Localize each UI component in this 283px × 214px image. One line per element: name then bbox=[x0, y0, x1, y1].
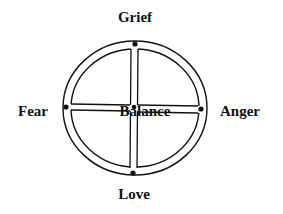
label-balance: Balance bbox=[120, 104, 171, 119]
label-grief: Grief bbox=[118, 10, 152, 25]
dot-right bbox=[198, 106, 203, 111]
label-love: Love bbox=[118, 187, 150, 202]
label-anger: Anger bbox=[220, 104, 260, 119]
dot-top bbox=[132, 41, 137, 46]
dot-left bbox=[63, 104, 68, 109]
dot-bottom bbox=[130, 170, 135, 175]
label-fear: Fear bbox=[18, 104, 48, 119]
wheel-diagram: Grief Love Fear Anger Balance bbox=[0, 0, 283, 214]
